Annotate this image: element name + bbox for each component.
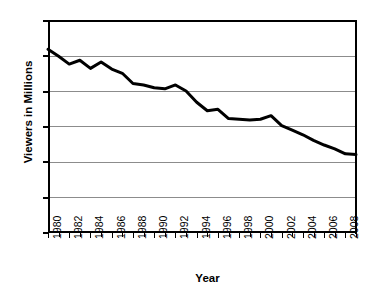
x-axis-tick-mark: [175, 233, 176, 238]
x-axis-tick-mark: [260, 233, 261, 238]
x-axis-tick-mark: [250, 233, 251, 237]
x-axis-tick-label: 1984: [94, 216, 105, 239]
x-axis-title-text: Year: [195, 272, 219, 284]
x-axis-tick-mark: [112, 233, 113, 238]
y-axis-title: Viewers in Millions: [22, 32, 34, 192]
x-axis-tick-label: 1996: [222, 216, 233, 239]
x-axis-tick-mark: [69, 233, 70, 238]
line-chart: 0102030405060 Viewers in Millions 198019…: [0, 0, 377, 294]
x-axis-tick-mark: [282, 233, 283, 238]
y-axis-tick-mark: [43, 126, 48, 128]
x-axis-tick-mark: [229, 233, 230, 237]
x-axis-tick-mark: [271, 233, 272, 237]
x-axis-tick-mark: [356, 233, 357, 237]
y-axis-tick-mark: [43, 197, 48, 199]
x-axis-tick-mark: [122, 233, 123, 237]
y-axis-tick-mark: [43, 55, 48, 57]
x-axis-tick-mark: [345, 233, 346, 238]
y-axis-tick-mark: [43, 91, 48, 93]
x-axis-tick-mark: [144, 233, 145, 237]
x-axis-tick-mark: [90, 233, 91, 238]
x-axis-tick-label: 1988: [137, 216, 148, 239]
plot-area: [48, 21, 356, 233]
x-axis-tick-mark: [197, 233, 198, 238]
x-axis-tick-label: 2000: [264, 216, 275, 239]
x-axis-tick-mark: [218, 233, 219, 238]
x-axis-tick-label: 1998: [243, 216, 254, 239]
gridline-20: [50, 162, 356, 163]
gridline-40: [50, 91, 356, 92]
x-axis-tick-label: 1990: [158, 216, 169, 239]
plot-border-top: [48, 20, 357, 22]
plot-border-right: [355, 20, 357, 234]
x-axis-tick-mark: [324, 233, 325, 238]
x-axis-tick-mark: [80, 233, 81, 237]
x-axis-tick-label: 1982: [73, 216, 84, 239]
x-axis-tick-mark: [154, 233, 155, 238]
x-axis-tick-label: 1980: [52, 216, 63, 239]
x-axis-tick-label: 1992: [179, 216, 190, 239]
x-axis-tick-mark: [314, 233, 315, 237]
x-axis-tick-mark: [133, 233, 134, 238]
gridline-30: [50, 126, 356, 127]
y-axis-tick-mark: [43, 20, 48, 22]
x-axis-tick-mark: [48, 233, 49, 238]
x-axis-tick-mark: [186, 233, 187, 237]
gridline-10: [50, 197, 356, 198]
x-axis-tick-mark: [165, 233, 166, 237]
x-axis-tick-mark: [303, 233, 304, 238]
x-axis-tick-mark: [207, 233, 208, 237]
x-axis-tick-mark: [59, 233, 60, 237]
x-axis-tick-mark: [335, 233, 336, 237]
gridline-50: [50, 56, 356, 57]
x-axis-title: Year: [0, 272, 377, 284]
x-axis-tick-mark: [292, 233, 293, 237]
y-axis-tick-mark: [43, 161, 48, 163]
x-axis-tick-mark: [101, 233, 102, 237]
x-axis-tick-label: 2008: [349, 216, 360, 239]
x-axis-tick-label: 2004: [307, 216, 318, 239]
x-axis-tick-mark: [239, 233, 240, 238]
x-axis-tick-label: 2006: [328, 216, 339, 239]
